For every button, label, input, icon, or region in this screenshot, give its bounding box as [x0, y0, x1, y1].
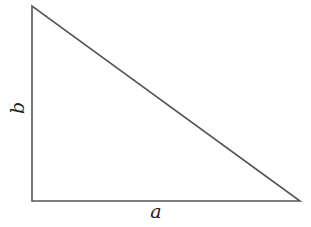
right-triangle-diagram: b a: [0, 0, 311, 227]
label-a: a: [150, 200, 161, 222]
triangle: [32, 6, 300, 201]
label-b: b: [6, 102, 28, 114]
